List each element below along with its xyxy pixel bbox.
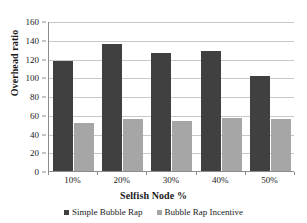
- y-tick-mark: [42, 22, 46, 23]
- y-tick-label: 60: [30, 111, 39, 120]
- bar-chart-figure: Overhead ratio 020406080100120140160 10%…: [0, 0, 307, 223]
- legend-swatch-icon: [157, 210, 162, 215]
- bar: [201, 51, 221, 171]
- bar-group: [246, 22, 295, 171]
- y-tick-label: 100: [26, 74, 40, 83]
- y-tick-mark: [42, 115, 46, 116]
- bar: [74, 123, 94, 171]
- bar: [102, 44, 122, 171]
- x-tick-label: 40%: [198, 175, 242, 186]
- x-tick-mark: [294, 172, 295, 175]
- bar-group: [147, 22, 196, 171]
- y-tick-mark: [42, 40, 46, 41]
- x-axis-title: Selfish Node %: [0, 190, 307, 201]
- x-axis-tick-labels: 10%20%30%40%50%: [48, 175, 294, 189]
- x-tick-mark: [97, 172, 98, 175]
- x-tick-label: 10%: [51, 175, 95, 186]
- y-tick-label: 80: [30, 93, 39, 102]
- plot-area: [48, 22, 294, 172]
- y-tick-label: 160: [26, 18, 40, 27]
- chart-legend: Simple Bubble RapBubble Rap Incentive: [0, 207, 307, 217]
- x-tick-mark: [146, 172, 147, 175]
- x-tick-label: 50%: [247, 175, 291, 186]
- legend-swatch-icon: [64, 210, 69, 215]
- legend-entry: Bubble Rap Incentive: [157, 207, 243, 217]
- y-tick-mark: [42, 172, 46, 173]
- y-tick-mark: [42, 134, 46, 135]
- legend-label: Bubble Rap Incentive: [165, 207, 243, 217]
- x-tick-label: 20%: [100, 175, 144, 186]
- x-tick-mark: [48, 172, 49, 175]
- bar-group: [49, 22, 98, 171]
- bar: [123, 119, 143, 172]
- y-tick-label: 20: [30, 149, 39, 158]
- bar: [151, 53, 171, 171]
- bar-group: [197, 22, 246, 171]
- bar: [53, 61, 73, 171]
- y-tick-mark: [42, 153, 46, 154]
- bar-group: [98, 22, 147, 171]
- y-tick-label: 140: [26, 36, 40, 45]
- bar: [250, 76, 270, 171]
- y-axis-tick-labels: 020406080100120140160: [0, 22, 46, 172]
- bar: [222, 118, 242, 171]
- legend-entry: Simple Bubble Rap: [64, 207, 143, 217]
- x-tick-label: 30%: [149, 175, 193, 186]
- x-tick-mark: [196, 172, 197, 175]
- y-tick-mark: [42, 59, 46, 60]
- y-tick-mark: [42, 78, 46, 79]
- x-tick-mark: [245, 172, 246, 175]
- y-tick-label: 0: [35, 168, 40, 177]
- y-tick-mark: [42, 97, 46, 98]
- y-tick-label: 120: [26, 55, 40, 64]
- bar: [271, 119, 291, 171]
- legend-label: Simple Bubble Rap: [72, 207, 143, 217]
- bar: [172, 121, 192, 171]
- y-tick-label: 40: [30, 130, 39, 139]
